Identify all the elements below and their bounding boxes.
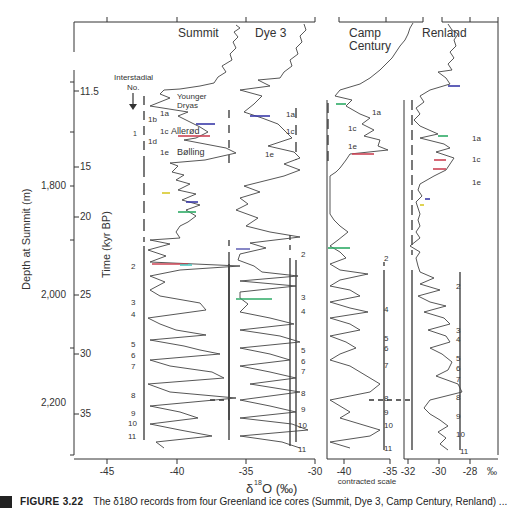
- svg-text:3: 3: [301, 293, 306, 302]
- figure-caption: FIGURE 3.22The δ18O records from four Gr…: [0, 496, 515, 508]
- renland-interstadial-numbers: 2 3 4 5 6 7 8 9 10 11: [456, 282, 469, 456]
- svg-text:9: 9: [131, 409, 136, 418]
- svg-text:9: 9: [301, 405, 306, 414]
- svg-text:15: 15: [80, 161, 92, 172]
- dye3-1a: 1a: [286, 110, 295, 119]
- svg-text:11: 11: [384, 444, 393, 453]
- svg-text:-35: -35: [383, 466, 398, 477]
- younger-label: Younger: [177, 92, 207, 101]
- camp-1e: 1e: [348, 142, 357, 151]
- svg-text:4: 4: [456, 335, 461, 344]
- camp-interstadial-numbers: 2 4 5 6 7 8 9 10 11: [384, 254, 393, 453]
- dye3-1e: 1e: [265, 150, 274, 159]
- down-arrow-icon: [129, 93, 137, 110]
- svg-text:11: 11: [128, 432, 137, 441]
- summit-1c: 1c: [160, 127, 168, 136]
- svg-text:5: 5: [384, 334, 389, 343]
- interstadial-1-label: 1: [133, 130, 137, 137]
- time-tick-labels: 11.5 15 20 25 30 35: [80, 86, 99, 419]
- renland-1e: 1e: [472, 178, 481, 187]
- svg-text:4: 4: [131, 310, 136, 319]
- svg-text:35: 35: [80, 408, 92, 419]
- svg-text:11: 11: [460, 447, 469, 456]
- svg-text:10: 10: [298, 421, 307, 430]
- camp-1c: 1c: [348, 124, 356, 133]
- renland-1a: 1a: [472, 134, 481, 143]
- svg-text:-40: -40: [337, 466, 352, 477]
- bolling-label: Bølling: [177, 147, 205, 157]
- x-tick-labels: -45 -40 -35 -30 -40 -35 -32 -30 -28 ‰: [100, 466, 497, 477]
- svg-text:-45: -45: [100, 466, 115, 477]
- svg-text:3: 3: [456, 326, 461, 335]
- summit-1d: 1d: [148, 137, 157, 146]
- panel-label-century: Century: [349, 39, 391, 53]
- x-axis-title: δ 18 O (‰): [246, 479, 297, 496]
- svg-text:-32: -32: [401, 466, 416, 477]
- y-axis-title-time: Time (kyr BP): [100, 211, 112, 278]
- svg-text:18: 18: [254, 479, 262, 486]
- summit-1a: 1a: [160, 109, 169, 118]
- svg-text:5: 5: [301, 346, 306, 355]
- caption-marker: [0, 496, 12, 508]
- interstadial-label-line2: No.: [127, 83, 139, 92]
- svg-text:-35: -35: [239, 466, 254, 477]
- svg-text:3: 3: [131, 298, 136, 307]
- summit-interstadial-numbers: 2 3 4 5 6 7 8 9 10 11: [128, 262, 137, 441]
- svg-text:-40: -40: [170, 466, 185, 477]
- svg-text:8: 8: [301, 389, 306, 398]
- svg-text:30: 30: [80, 348, 92, 359]
- summit-1b: 1b: [148, 115, 157, 124]
- highlight-segments: [152, 86, 460, 299]
- svg-text:2: 2: [384, 254, 389, 263]
- svg-text:2,000: 2,000: [41, 289, 66, 300]
- panel-label-summit: Summit: [178, 26, 219, 40]
- svg-text:10: 10: [456, 430, 465, 439]
- y-axis-title-depth: Depth at Summit (m): [20, 189, 32, 290]
- svg-text:20: 20: [80, 211, 92, 222]
- svg-text:2: 2: [301, 250, 306, 259]
- svg-text:6: 6: [301, 357, 306, 366]
- svg-text:6: 6: [131, 351, 136, 360]
- svg-text:4: 4: [384, 305, 389, 314]
- svg-text:6: 6: [456, 364, 461, 373]
- svg-text:9: 9: [384, 408, 389, 417]
- svg-text:10: 10: [128, 419, 137, 428]
- svg-text:11: 11: [298, 445, 307, 454]
- svg-text:7: 7: [301, 367, 306, 376]
- svg-text:-30: -30: [308, 466, 323, 477]
- svg-text:δ: δ: [246, 481, 253, 496]
- svg-text:5: 5: [456, 354, 461, 363]
- renland-trace: [410, 24, 462, 450]
- svg-text:2: 2: [456, 282, 461, 291]
- camp-1a: 1a: [372, 108, 381, 117]
- panel-label-camp: Camp: [349, 26, 381, 40]
- svg-text:5: 5: [131, 340, 136, 349]
- svg-text:2: 2: [131, 262, 136, 271]
- svg-text:1,800: 1,800: [41, 180, 66, 191]
- camp-century-trace: [330, 23, 413, 448]
- dryas-label: Dryas: [177, 101, 198, 110]
- svg-text:O (‰): O (‰): [262, 481, 297, 496]
- svg-text:2,200: 2,200: [41, 397, 66, 408]
- svg-text:8: 8: [131, 391, 136, 400]
- dye3-trace: [236, 24, 308, 448]
- svg-text:11.5: 11.5: [80, 86, 99, 97]
- svg-text:9: 9: [456, 412, 461, 421]
- panel-label-dye3: Dye 3: [255, 26, 287, 40]
- svg-text:-30: -30: [432, 466, 447, 477]
- depth-tick-labels: 1,800 2,000 2,200: [41, 180, 66, 408]
- left-axes: [70, 70, 79, 455]
- svg-text:7: 7: [384, 361, 389, 370]
- svg-text:7: 7: [131, 362, 136, 371]
- interstadial-label-line1: Interstadial: [114, 73, 153, 82]
- dye3-interstadial-numbers: 2 3 4 5 6 7 8 9 10 11: [298, 250, 307, 454]
- summit-trace: [148, 25, 240, 448]
- svg-text:-28: -28: [463, 466, 478, 477]
- caption-text: The δ18O records from four Greenland ice…: [93, 496, 507, 507]
- dye3-1c: 1c: [286, 127, 294, 136]
- svg-text:25: 25: [80, 289, 92, 300]
- svg-text:7: 7: [456, 375, 461, 384]
- summit-1e: 1e: [160, 148, 169, 157]
- renland-1c: 1c: [472, 155, 480, 164]
- figure-number: FIGURE 3.22: [20, 496, 83, 507]
